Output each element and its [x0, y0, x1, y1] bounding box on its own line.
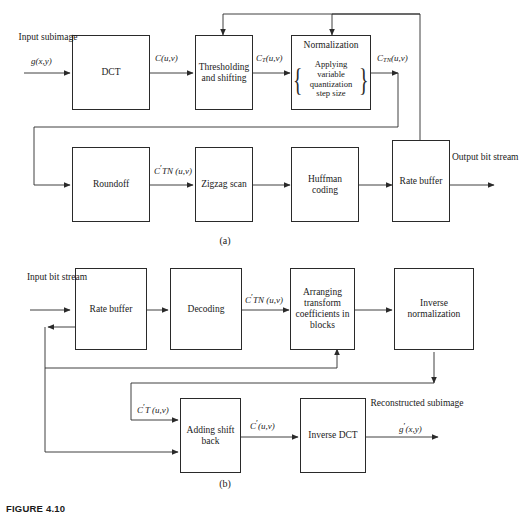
label-input-math: g(x,y) — [31, 56, 52, 66]
label-ct-uv: CT(u,v) — [256, 53, 282, 65]
box-huffman-coding-label: Huffman coding — [292, 174, 358, 196]
box-zigzag-scan-label: Zigzag scan — [199, 179, 249, 190]
box-adding-shift-back-label: Adding shift back — [181, 425, 240, 447]
box-zigzag-scan[interactable]: Zigzag scan — [195, 147, 253, 222]
label-c-prime-uv-text: C′(u,v) — [250, 421, 275, 431]
box-rate-buffer-a[interactable]: Rate buffer — [392, 140, 450, 222]
figure-caption-text: FIGURE 4.10 — [6, 503, 65, 514]
box-inverse-normalization-label: Inverse normalization — [395, 298, 473, 320]
label-ctn-uv: CTN(u,v) — [377, 53, 408, 65]
box-roundoff-label: Roundoff — [91, 179, 131, 190]
label-reconstructed-subimage: Reconstructed subimage — [370, 398, 464, 409]
label-ct-prime-uv-text: C′T (u,v) — [137, 405, 169, 415]
label-input-subimage-text: Input subimage — [19, 32, 78, 42]
box-rate-buffer-a-label: Rate buffer — [398, 176, 445, 187]
label-input-bit-stream-text: Input bit stream — [27, 272, 87, 282]
box-normalization-title: Normalization — [292, 40, 370, 51]
box-decoding[interactable]: Decoding — [170, 268, 242, 350]
label-ct-prime-uv: C′T (u,v) — [137, 402, 169, 415]
label-c-uv: C(u,v) — [155, 53, 178, 63]
label-input-math-text: g(x,y) — [31, 56, 52, 66]
subcaption-a-text: (a) — [219, 235, 230, 246]
label-ctn-prime-uv-b-text: C′TN (u,v) — [245, 295, 283, 305]
label-output-math: g′(x,y) — [399, 421, 422, 434]
label-output-bit-stream: Output bit stream — [452, 152, 496, 163]
label-c-uv-text: C(u,v) — [155, 53, 178, 63]
box-normalization-inner-label: Applying variable quantization step size — [308, 60, 354, 98]
box-roundoff[interactable]: Roundoff — [72, 147, 150, 222]
box-adding-shift-back[interactable]: Adding shift back — [180, 398, 241, 473]
box-inverse-dct[interactable]: Inverse DCT — [300, 398, 366, 473]
box-huffman-coding[interactable]: Huffman coding — [291, 147, 359, 222]
box-decoding-label: Decoding — [186, 304, 227, 315]
label-output-math-text: g′(x,y) — [399, 424, 422, 434]
label-ctn-prime-uv-b: C′TN (u,v) — [245, 292, 283, 305]
brace-left-glyph: { — [292, 65, 304, 95]
box-thresholding-label: Thresholding and shifting — [196, 62, 252, 84]
subcaption-a: (a) — [195, 235, 255, 246]
box-dct-label: DCT — [100, 67, 123, 78]
box-normalization-inner: { Applying variable quantization step si… — [299, 54, 363, 105]
box-arranging-label: Arranging transform coefficients in bloc… — [291, 287, 354, 331]
label-ctn-prime-uv-a-text: C′TN (u,v) — [154, 166, 192, 176]
box-arranging[interactable]: Arranging transform coefficients in bloc… — [290, 268, 355, 350]
label-ctn-uv-text: CTN(u,v) — [377, 53, 408, 63]
box-dct[interactable]: DCT — [72, 35, 150, 110]
label-ct-uv-text: CT(u,v) — [256, 53, 282, 63]
label-c-prime-uv: C′(u,v) — [250, 418, 275, 431]
box-normalization[interactable]: Normalization { Applying variable quanti… — [291, 35, 371, 110]
subcaption-b: (b) — [195, 478, 255, 489]
label-ctn-prime-uv-a: C′TN (u,v) — [154, 163, 192, 176]
label-output-bit-stream-text: Output bit stream — [452, 152, 519, 162]
brace-right-glyph: } — [358, 65, 370, 95]
box-rate-buffer-b-label: Rate buffer — [88, 304, 135, 315]
label-input-subimage: Input subimage — [14, 32, 82, 43]
label-reconstructed-subimage-text: Reconstructed subimage — [370, 398, 463, 408]
box-inverse-normalization[interactable]: Inverse normalization — [394, 268, 474, 350]
label-input-bit-stream: Input bit stream — [24, 272, 90, 283]
box-inverse-dct-label: Inverse DCT — [306, 430, 359, 441]
box-thresholding[interactable]: Thresholding and shifting — [195, 35, 253, 110]
figure-caption: FIGURE 4.10 — [6, 503, 65, 514]
subcaption-b-text: (b) — [219, 478, 231, 489]
